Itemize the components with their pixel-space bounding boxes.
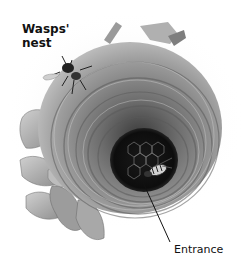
wasps-nest-illustration: Wasps' nest Entrance — [0, 0, 242, 265]
nest-title-label: Wasps' nest — [22, 22, 69, 50]
entrance-label: Entrance — [174, 244, 223, 256]
